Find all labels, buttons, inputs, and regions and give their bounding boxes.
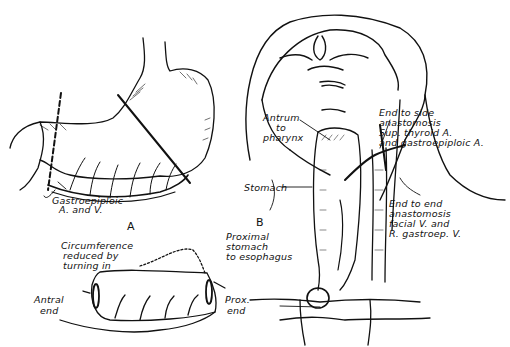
line-drawing [0,0,510,347]
stomach-panel-a [10,38,214,202]
dashed-cut-line [48,93,61,190]
surgical-illustration: Gastroepiploic A. and V. A Antrum to pha… [0,0,510,347]
label-a-and-v: A. and V. [59,205,103,215]
label-r-gastroep-v: R. gastroep. V. [389,229,461,239]
head-outline [246,15,505,200]
label-turning-in: turning in [63,261,111,271]
label-to-esophagus: to esophagus [226,252,292,262]
label-antral-end: end [40,306,59,316]
label-antral: Antral [34,295,64,305]
panel-letter-a: A [127,222,135,232]
hatching [40,72,210,140]
label-prox: Prox. [225,295,250,305]
label-prox-end: end [227,306,246,316]
leader-lines [58,120,420,307]
label-gastroepiploic-a: and gastroepiploic A. [379,138,484,148]
label-stomach: Stomach [244,183,287,193]
panel-letter-b: B [256,218,264,228]
solid-cut-line [118,95,190,183]
label-pharynx: pharynx [263,133,303,143]
